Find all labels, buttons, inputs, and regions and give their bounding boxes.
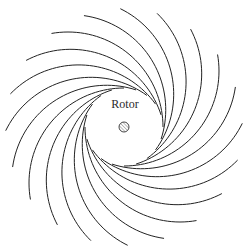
- rotor-label: Rotor: [104, 97, 146, 112]
- spiral-arm: [52, 32, 164, 127]
- spiral-arm: [87, 139, 222, 205]
- spiral-arm: [85, 127, 197, 222]
- spiral-arm: [46, 90, 112, 225]
- rotor-diagram: [0, 0, 245, 252]
- hub-shaft-icon: [119, 122, 129, 132]
